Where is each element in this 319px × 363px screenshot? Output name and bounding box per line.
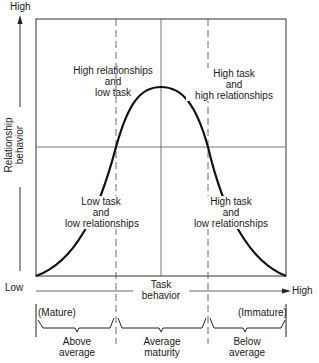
maturity-right-end-label: (Immature) — [238, 307, 287, 318]
x-axis-title-line1: Task — [135, 279, 187, 290]
quadrant-label-high-rel-low-task: High relationships and low task — [60, 65, 166, 98]
x-axis-title: Task behavior — [135, 279, 187, 301]
quadrant-label-high-task-high-rel: High task and high relationships — [186, 68, 282, 101]
x-axis-arrowhead-icon — [282, 289, 291, 294]
maturity-segment-above-average: Above average — [50, 336, 104, 358]
maturity-segment-below-average: Below average — [220, 336, 274, 358]
maturity-segment-average: Average maturity — [134, 336, 190, 358]
y-axis-low-label: Low — [5, 282, 23, 293]
x-axis-title-line2: behavior — [135, 290, 187, 301]
y-axis-title-line1: Relationship — [3, 110, 14, 180]
quadrant-label-low-task-low-rel: Low task and low relationships — [64, 196, 138, 229]
y-axis-high-label: High — [10, 1, 31, 12]
y-axis-arrowhead-icon — [18, 15, 23, 24]
maturity-left-end-label: (Mature) — [38, 307, 76, 318]
quadrant-label-high-task-low-rel: High task and low relationships — [193, 196, 269, 229]
y-axis-title: Relationship behavior — [3, 110, 27, 180]
y-axis-title-line2: behavior — [14, 110, 25, 180]
x-axis-high-label: High — [292, 285, 313, 296]
